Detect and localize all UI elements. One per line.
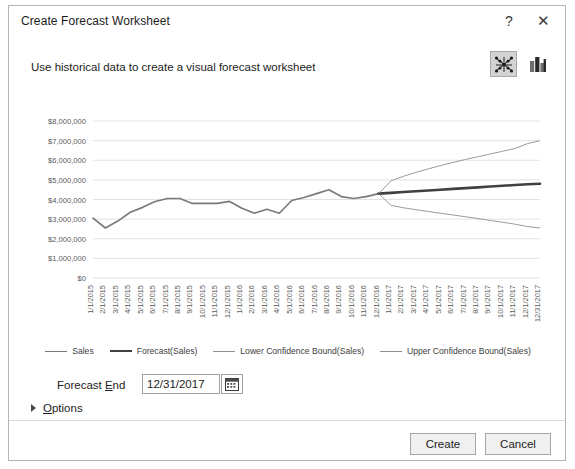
instruction-text: Use historical data to create a visual f… (31, 61, 315, 73)
y-axis-tick-label: $2,000,000 (48, 235, 86, 244)
options-disclosure[interactable]: Options (31, 402, 83, 414)
legend-label: Forecast(Sales) (137, 346, 198, 356)
forecast-chart[interactable]: $8,000,000$7,000,000$6,000,000$5,000,000… (9, 101, 567, 361)
chart-type-toggle-group (490, 51, 551, 77)
options-label-post: ptions (52, 402, 83, 414)
x-axis-tick-label: 11/1/2017 (508, 285, 517, 317)
x-axis-tick-label: 5/1/2015 (136, 285, 145, 314)
create-forecast-worksheet-dialog: Create Forecast Worksheet ? ✕ Use histor… (8, 5, 566, 461)
x-axis-tick-label: 4/1/2016 (272, 285, 281, 314)
x-axis-tick-label: 6/1/2017 (446, 285, 455, 314)
x-axis-tick-label: 9/1/2017 (483, 285, 492, 314)
line-chart-icon[interactable] (490, 51, 517, 77)
y-axis-tick-label: $0 (78, 274, 86, 283)
options-label: Options (43, 402, 83, 414)
x-axis-tick-label: 5/1/2017 (434, 285, 443, 314)
x-axis-tick-label: 7/1/2017 (459, 285, 468, 314)
legend-swatch (110, 350, 132, 352)
x-axis-tick-label: 12/1/2015 (223, 285, 232, 318)
x-axis-tick-label: 4/1/2015 (123, 285, 132, 314)
x-axis-tick-label: 10/1/2015 (198, 285, 207, 318)
legend-item: Lower Confidence Bound(Sales) (213, 346, 364, 356)
chevron-right-icon (31, 404, 36, 412)
legend-item: Upper Confidence Bound(Sales) (380, 346, 531, 356)
options-label-accel: O (43, 402, 52, 414)
x-axis-tick-label: 12/1/2016 (372, 285, 381, 318)
legend-swatch (45, 351, 67, 352)
calendar-icon[interactable] (221, 374, 243, 394)
dialog-titlebar: Create Forecast Worksheet ? ✕ (9, 6, 565, 37)
cancel-button[interactable]: Cancel (485, 433, 551, 455)
y-axis-tick-label: $5,000,000 (48, 176, 86, 185)
x-axis-tick-label: 8/1/2017 (471, 285, 480, 314)
x-axis-tick-label: 10/1/2016 (347, 285, 356, 318)
x-axis-tick-label: 9/1/2015 (185, 285, 194, 314)
chart-series-line (379, 194, 540, 228)
x-axis-tick-label: 7/1/2015 (161, 285, 170, 314)
chart-series-line (379, 184, 540, 194)
y-axis-tick-label: $6,000,000 (48, 156, 86, 165)
legend-label: Sales (72, 346, 94, 356)
x-axis-tick-label: 6/1/2015 (148, 285, 157, 314)
dialog-title: Create Forecast Worksheet (21, 14, 170, 28)
forecast-end-input[interactable] (142, 374, 220, 394)
x-axis-tick-label: 2/1/2016 (247, 285, 256, 314)
legend-item: Forecast(Sales) (110, 346, 198, 356)
y-axis-tick-label: $1,000,000 (48, 254, 86, 263)
column-chart-icon[interactable] (524, 51, 551, 77)
x-axis-tick-label: 11/1/2016 (359, 285, 368, 317)
forecast-end-label: Forecast End (57, 379, 125, 391)
legend-swatch (213, 351, 235, 352)
forecast-end-label-post: nd (113, 379, 126, 391)
help-icon[interactable]: ? (497, 10, 521, 32)
x-axis-tick-label: 1/1/2016 (235, 285, 244, 314)
y-axis-tick-label: $3,000,000 (48, 215, 86, 224)
y-axis-tick-label: $8,000,000 (48, 117, 86, 126)
close-icon[interactable]: ✕ (531, 10, 555, 32)
x-axis-tick-label: 3/1/2015 (111, 285, 120, 314)
x-axis-tick-label: 4/1/2017 (421, 285, 430, 314)
x-axis-tick-label: 2/1/2015 (98, 285, 107, 314)
legend-item: Sales (45, 346, 94, 356)
y-axis-tick-label: $7,000,000 (48, 137, 86, 146)
legend-label: Lower Confidence Bound(Sales) (240, 346, 364, 356)
x-axis-tick-label: 3/1/2017 (409, 285, 418, 314)
forecast-end-row: Forecast End (9, 374, 565, 398)
x-axis-tick-label: 3/1/2016 (260, 285, 269, 314)
legend-swatch (380, 351, 402, 352)
dialog-footer: Create Cancel (9, 421, 565, 461)
x-axis-tick-label: 10/1/2017 (496, 285, 505, 318)
x-axis-tick-label: 11/1/2015 (210, 285, 219, 317)
x-axis-tick-label: 12/1/2017 (521, 285, 530, 318)
y-axis-tick-label: $4,000,000 (48, 196, 86, 205)
forecast-end-label-pre: Forecast (57, 379, 105, 391)
x-axis-tick-label: 5/1/2016 (285, 285, 294, 314)
x-axis-tick-label: 12/31/2017 (533, 285, 542, 322)
x-axis-tick-label: 8/1/2015 (173, 285, 182, 314)
chart-canvas: $8,000,000$7,000,000$6,000,000$5,000,000… (9, 101, 567, 361)
x-axis-tick-label: 6/1/2016 (297, 285, 306, 314)
legend-label: Upper Confidence Bound(Sales) (407, 346, 531, 356)
chart-legend: SalesForecast(Sales)Lower Confidence Bou… (9, 341, 567, 361)
x-axis-tick-label: 7/1/2016 (310, 285, 319, 314)
x-axis-tick-label: 9/1/2016 (334, 285, 343, 314)
create-button[interactable]: Create (410, 433, 476, 455)
x-axis-tick-label: 1/1/2017 (384, 285, 393, 314)
x-axis-tick-label: 2/1/2017 (396, 285, 405, 314)
forecast-end-label-accel: E (105, 379, 113, 391)
chart-series-line (93, 190, 379, 228)
x-axis-tick-label: 1/1/2015 (86, 285, 95, 314)
x-axis-tick-label: 8/1/2016 (322, 285, 331, 314)
